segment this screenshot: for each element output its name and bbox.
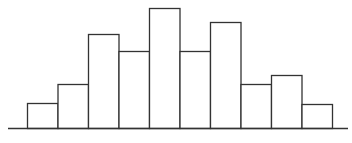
histogram-bar: [150, 9, 181, 129]
histogram-bar: [58, 85, 89, 129]
histogram-bar: [241, 85, 272, 129]
histogram-bar: [211, 23, 242, 129]
histogram-bar: [28, 104, 59, 129]
histogram-chart: [0, 0, 352, 143]
bars-group: [28, 9, 333, 129]
histogram-bar: [119, 52, 150, 129]
histogram-bar: [272, 76, 303, 129]
histogram-bar: [89, 35, 120, 129]
histogram-bar: [302, 105, 333, 129]
histogram-bar: [180, 52, 211, 129]
histogram-canvas: [0, 0, 352, 143]
